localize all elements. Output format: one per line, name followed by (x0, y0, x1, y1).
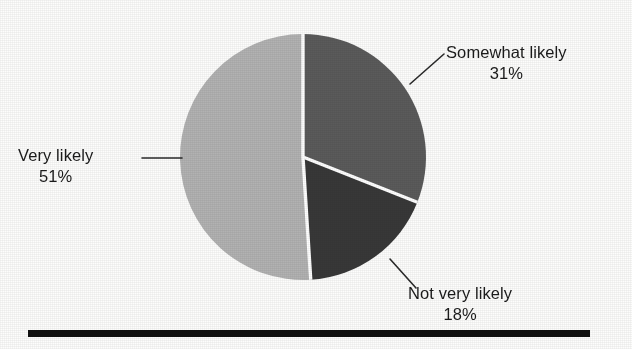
pie-label-not-very-likely-name: Not very likely (408, 283, 512, 304)
pie-label-very-likely-value: 51% (18, 166, 93, 187)
footer-rule (28, 330, 590, 337)
pie-label-somewhat-likely-value: 31% (446, 63, 567, 84)
leader-line-somewhat-likely (410, 54, 444, 84)
pie-label-very-likely: Very likely 51% (18, 145, 93, 187)
pie-chart-figure: Somewhat likely 31% Not very likely 18% … (0, 0, 632, 349)
pie-slice-very-likely (180, 34, 311, 280)
pie-label-very-likely-name: Very likely (18, 145, 93, 166)
pie-label-somewhat-likely: Somewhat likely 31% (446, 42, 567, 84)
pie-label-not-very-likely: Not very likely 18% (408, 283, 512, 325)
pie-label-somewhat-likely-name: Somewhat likely (446, 42, 567, 63)
pie-label-not-very-likely-value: 18% (408, 304, 512, 325)
